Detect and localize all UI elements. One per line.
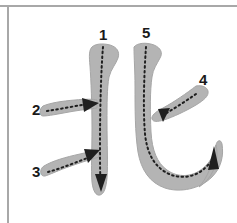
stroke-4-shape (152, 86, 208, 122)
stroke-1-shape (89, 44, 118, 195)
stroke-number-2: 2 (32, 102, 40, 117)
stroke-order-diagram: 1 2 3 4 5 (0, 0, 237, 223)
stroke-number-4: 4 (199, 72, 207, 87)
stroke-number-5: 5 (142, 25, 150, 40)
stroke-number-3: 3 (32, 164, 40, 179)
stroke-number-1: 1 (99, 27, 107, 42)
